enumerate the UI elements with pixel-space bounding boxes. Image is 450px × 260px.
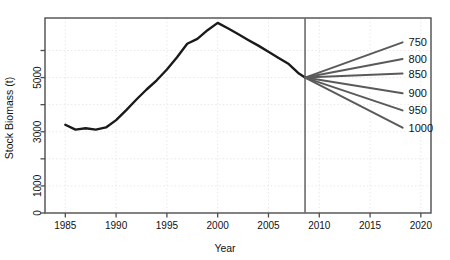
x-tick-label: 2010 (308, 220, 331, 231)
x-axis-title: Year (214, 242, 236, 254)
x-tick-label: 2000 (207, 220, 230, 231)
y-tick-label: 0 (32, 210, 43, 216)
legend-label-850: 850 (409, 68, 427, 80)
x-tick-label: 2015 (359, 220, 382, 231)
legend-label-900: 900 (409, 87, 427, 99)
legend-label-950: 950 (409, 104, 427, 116)
chart-canvas: 1985199019952000200520102015202001000300… (0, 0, 450, 260)
x-tick-label: 1990 (105, 220, 128, 231)
legend-label-800: 800 (409, 53, 427, 65)
y-tick-label: 1000 (32, 174, 43, 197)
stock-biomass-chart: 1985199019952000200520102015202001000300… (0, 0, 450, 260)
x-tick-label: 2020 (410, 220, 433, 231)
x-tick-label: 1995 (156, 220, 179, 231)
legend-label-750: 750 (409, 36, 427, 48)
y-tick-label: 3000 (32, 120, 43, 143)
y-axis-title: Stock Biomass (t) (3, 77, 15, 159)
x-tick-label: 2005 (257, 220, 280, 231)
x-tick-label: 1985 (54, 220, 77, 231)
y-tick-label: 5000 (32, 66, 43, 89)
legend-label-1000: 1000 (409, 122, 433, 134)
